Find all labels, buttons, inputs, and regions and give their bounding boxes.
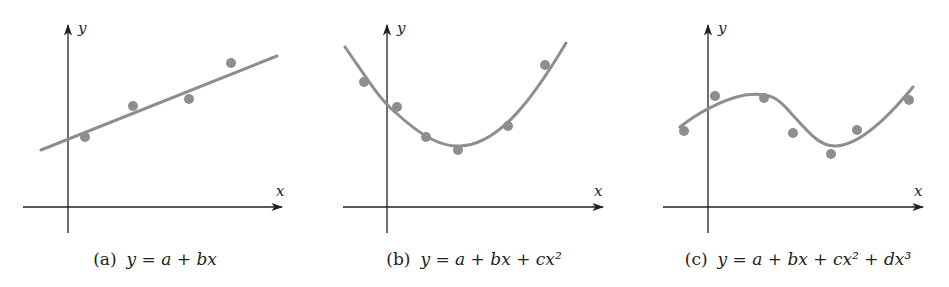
caption-c: (c)y = a + bx + cx² + dx³ (685, 249, 912, 269)
y-axis-label: y (77, 19, 87, 37)
caption-b: (b)y = a + bx + cx² (386, 249, 562, 269)
panel-b: x y (b)y = a + bx + cx² (343, 19, 603, 269)
quadratic-fit-curve (345, 43, 566, 146)
caption-a: (a)y = a + bx (93, 249, 217, 269)
y-axis-label: y (717, 19, 727, 37)
y-axis-label: y (396, 19, 406, 37)
x-axis-label: x (914, 182, 923, 200)
panel-a: x y (a)y = a + bx (23, 19, 285, 269)
linear-fit-line (41, 56, 277, 150)
figure: x y (a)y = a + bx x y (b)y = a + bx + cx… (0, 0, 949, 287)
x-axis-label: x (276, 182, 285, 200)
panel-c: x y (c)y = a + bx + cx² + dx³ (663, 19, 923, 269)
x-axis-label: x (594, 182, 603, 200)
data-points (80, 58, 236, 142)
